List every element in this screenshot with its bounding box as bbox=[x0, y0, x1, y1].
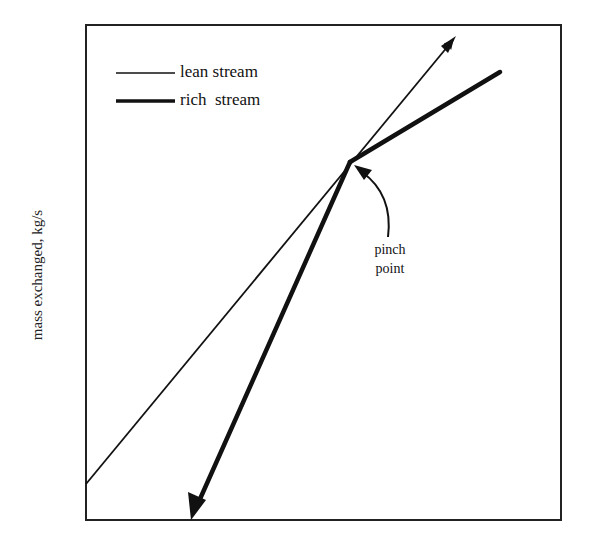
legend-label-rich: rich stream bbox=[180, 90, 260, 110]
legend-label-lean: lean stream bbox=[180, 62, 258, 82]
pinch-label-line2: point bbox=[365, 259, 415, 278]
diagram-canvas bbox=[0, 0, 589, 557]
rich-stream-upper-line bbox=[350, 72, 500, 162]
pinch-label-line1: pinch bbox=[365, 240, 415, 259]
pinch-point-label: pinch point bbox=[365, 240, 415, 278]
pinch-point-pointer bbox=[362, 172, 389, 237]
y-axis-label: mass exchanged, kg/s bbox=[29, 210, 46, 340]
rich-stream-lower-line bbox=[196, 162, 350, 508]
